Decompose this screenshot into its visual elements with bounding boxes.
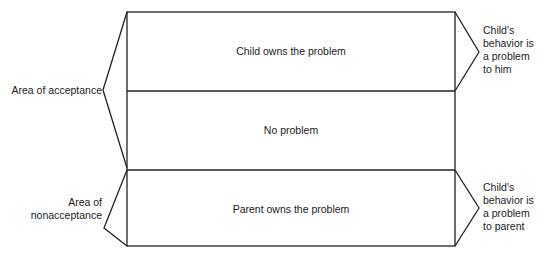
area-of-acceptance-label: Area of acceptance [12, 84, 102, 97]
right-label-line: behavior is [483, 37, 534, 50]
right-label-line: Child's [483, 181, 514, 194]
right-label-line: Child's [483, 24, 514, 37]
brace-parent-problem [455, 170, 479, 246]
brace-nonacceptance [104, 170, 127, 246]
box-child-owns-label: Child owns the problem [127, 45, 455, 58]
box-parent-owns-label: Parent owns the problem [127, 203, 455, 216]
right-label-line: to him [483, 63, 512, 76]
brace-child-problem [455, 12, 479, 91]
right-label-line: behavior is [483, 194, 534, 207]
area-of-nonacceptance-label-line1: Area of [68, 196, 102, 209]
right-label-line: to parent [483, 220, 524, 233]
area-of-nonacceptance-label-line2: nonacceptance [31, 209, 102, 222]
brace-acceptance [103, 12, 127, 168]
box-no-problem-label: No problem [127, 124, 455, 137]
right-label-line: a problem [483, 207, 530, 220]
right-label-line: a problem [483, 50, 530, 63]
